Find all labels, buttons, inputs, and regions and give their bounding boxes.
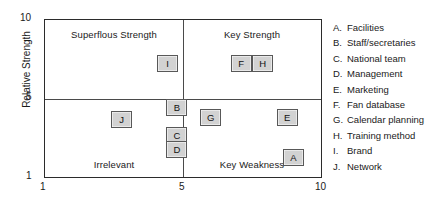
legend-item-i: I.Brand xyxy=(333,143,445,158)
legend-item-d: D.Management xyxy=(333,66,445,81)
legend-item-key: C. xyxy=(333,51,347,66)
x-axis-tick-1: 1 xyxy=(40,181,46,192)
legend-item-label: Marketing xyxy=(347,82,445,97)
y-axis-tick-10: 10 xyxy=(20,12,31,23)
legend: A.FacilitiesB.Staff/secretariesC.Nationa… xyxy=(333,20,445,174)
data-marker-a: A xyxy=(283,149,304,166)
plot-area: Superflous Strength Key Strength Irrelev… xyxy=(44,19,322,178)
data-marker-h: H xyxy=(252,55,273,72)
legend-item-b: B.Staff/secretaries xyxy=(333,35,445,50)
legend-item-key: G. xyxy=(333,112,347,127)
legend-item-j: J.Network xyxy=(333,159,445,174)
legend-item-key: F. xyxy=(333,97,347,112)
legend-item-key: E. xyxy=(333,82,347,97)
legend-item-c: C.National team xyxy=(333,51,445,66)
data-marker-g: G xyxy=(200,109,221,126)
legend-item-label: Management xyxy=(347,66,445,81)
legend-item-a: A.Facilities xyxy=(333,20,445,35)
x-axis-tick-10: 10 xyxy=(315,181,326,192)
data-marker-i: I xyxy=(157,55,178,72)
legend-item-label: Training method xyxy=(347,128,445,143)
legend-item-label: Brand xyxy=(347,143,445,158)
data-marker-f: F xyxy=(231,55,252,72)
legend-item-label: Fan database xyxy=(347,97,445,112)
legend-item-key: B. xyxy=(333,35,347,50)
y-axis-tick-1: 1 xyxy=(26,170,32,181)
legend-item-key: J. xyxy=(333,159,347,174)
legend-item-label: Calendar planning xyxy=(347,112,445,127)
legend-item-f: F.Fan database xyxy=(333,97,445,112)
legend-item-label: National team xyxy=(347,51,445,66)
chart-root: Relative Strength 10 5 1 1 5 10 Superflo… xyxy=(0,0,447,207)
legend-item-label: Staff/secretaries xyxy=(347,35,445,50)
data-marker-e: E xyxy=(277,109,298,126)
legend-item-key: I. xyxy=(333,143,347,158)
quadrant-label-superflous-strength: Superflous Strength xyxy=(71,29,157,40)
data-marker-d: D xyxy=(166,141,187,158)
legend-item-key: A. xyxy=(333,20,347,35)
data-marker-b: B xyxy=(166,99,187,116)
quadrant-label-key-strength: Key Strength xyxy=(224,29,280,40)
quadrant-label-irrelevant: Irrelevant xyxy=(94,159,135,170)
x-axis-tick-5: 5 xyxy=(179,181,185,192)
y-axis-tick-5: 5 xyxy=(26,91,32,102)
legend-item-label: Network xyxy=(347,159,445,174)
legend-item-key: H. xyxy=(333,128,347,143)
legend-item-label: Facilities xyxy=(347,20,445,35)
legend-item-g: G.Calendar planning xyxy=(333,112,445,127)
legend-item-key: D. xyxy=(333,66,347,81)
legend-item-e: E.Marketing xyxy=(333,82,445,97)
data-marker-j: J xyxy=(111,111,132,128)
legend-item-h: H.Training method xyxy=(333,128,445,143)
quadrant-label-key-weakness: Key Weakness xyxy=(220,159,284,170)
